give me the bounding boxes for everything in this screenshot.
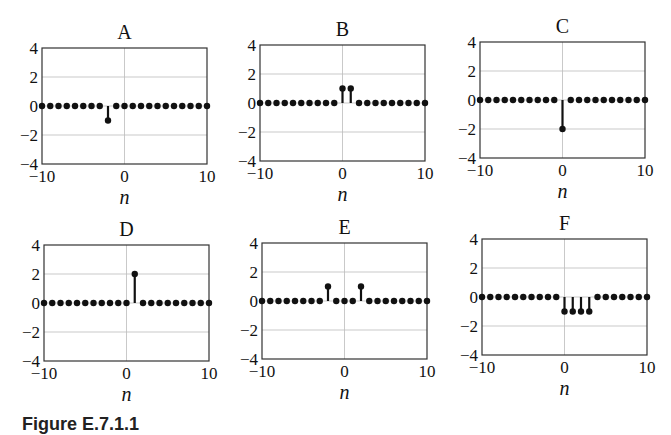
plot-panel-f: F420−2−4−10010n [440,191,660,396]
plot-title: A [117,21,132,43]
y-tick-label: 4 [470,230,479,249]
x-tick-label: −10 [247,164,274,183]
x-tick-label: 10 [637,161,654,180]
plot-title: E [338,216,350,238]
x-tick-label: 0 [558,161,567,180]
x-tick-label: −10 [469,358,496,377]
y-tick-label: 0 [32,294,41,313]
x-tick-label: 0 [340,362,349,381]
plot-title: D [119,218,133,240]
x-tick-label: −10 [29,167,56,186]
y-tick-label: 0 [250,292,259,311]
y-tick-label: 0 [470,288,479,307]
stem-plot: B420−2−4−10010n [218,0,438,202]
plot-panel-d: D420−2−4−10010n [2,197,222,402]
y-tick-label: −2 [240,321,258,340]
x-tick-label: 0 [338,164,347,183]
stem-plot: E420−2−4−10010n [220,195,440,400]
stem-plot: C420−2−4−10010n [438,0,658,199]
x-tick-label: 0 [120,167,129,186]
plot-panel-e: E420−2−4−10010n [220,195,440,400]
y-tick-label: 2 [470,259,479,278]
x-tick-label: 10 [417,164,434,183]
y-tick-label: −2 [20,126,38,145]
x-axis-label: n [122,383,132,405]
figure-caption: Figure E.7.1.1 [22,414,139,435]
plot-title: F [559,212,570,234]
stem-plot: F420−2−4−10010n [440,191,660,396]
y-tick-label: −2 [458,120,476,139]
x-axis-label: n [560,377,570,399]
plot-panel-c: C420−2−4−10010n [438,0,658,199]
plot-title: C [556,15,569,37]
stem-series [477,97,648,132]
y-tick-label: 2 [30,68,39,87]
x-tick-label: −10 [249,362,276,381]
plot-title: B [336,18,349,40]
plot-panel-a: A420−2−4−10010n [0,0,220,205]
y-tick-label: 4 [468,33,477,52]
y-tick-label: 4 [30,39,39,58]
x-tick-label: 0 [122,364,131,383]
y-tick-label: 4 [32,236,41,255]
y-tick-label: −2 [238,123,256,142]
y-tick-label: −2 [22,323,40,342]
x-tick-label: 10 [201,364,218,383]
x-tick-label: 10 [639,358,656,377]
y-tick-label: 0 [468,91,477,110]
plot-panel-b: B420−2−4−10010n [218,0,438,202]
x-tick-label: −10 [31,364,58,383]
y-tick-label: 4 [250,234,259,253]
y-tick-label: 2 [32,265,41,284]
y-tick-label: 2 [248,65,257,84]
y-tick-label: 2 [468,62,477,81]
stem-plot: A420−2−4−10010n [0,0,220,205]
y-tick-label: 2 [250,263,259,282]
x-axis-label: n [340,381,350,403]
y-tick-label: −2 [460,317,478,336]
y-tick-label: 0 [30,97,39,116]
y-tick-label: 4 [248,36,257,55]
x-tick-label: 0 [560,358,569,377]
stem-plot: D420−2−4−10010n [2,197,222,402]
y-tick-label: 0 [248,94,257,113]
x-tick-label: 10 [199,167,216,186]
x-tick-label: 10 [419,362,436,381]
x-tick-label: −10 [467,161,494,180]
